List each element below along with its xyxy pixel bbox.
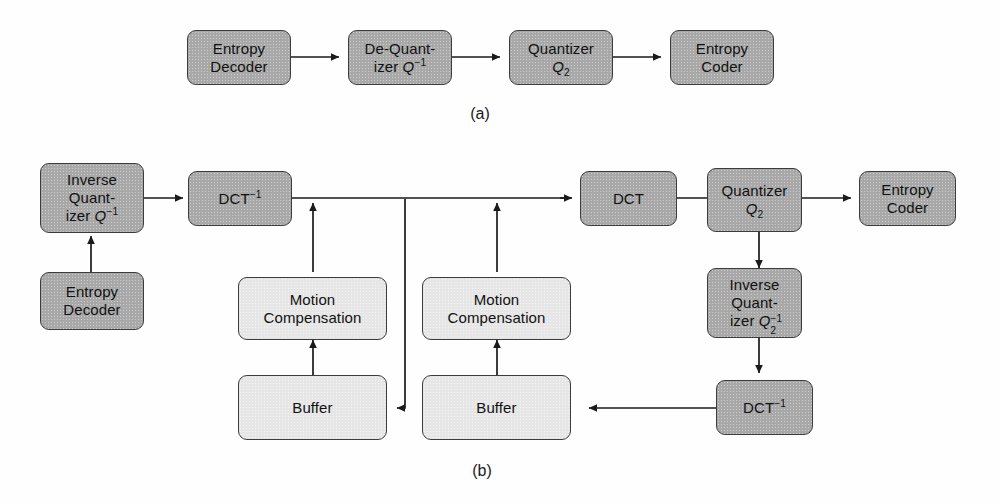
block-motion-compensation-left-b[interactable]: MotionCompensation [238, 277, 387, 340]
q-symbol: Q [403, 58, 415, 75]
block-label: InverseQuant-izer Q−12 [711, 276, 798, 329]
block-label: EntropyCoder [863, 181, 952, 216]
block-label: DCT [584, 190, 673, 208]
block-entropy-decoder-a[interactable]: EntropyDecoder [187, 30, 291, 85]
block-label: DCT−1 [192, 190, 288, 208]
block-dct-b[interactable]: DCT [580, 171, 677, 226]
q-symbol: Q [95, 207, 107, 224]
block-entropy-coder-b[interactable]: EntropyCoder [859, 171, 956, 226]
exponent-minus-one: −1 [106, 206, 118, 217]
wire-b-bus-to-bufleft [397, 199, 405, 408]
figure-canvas: EntropyDecoder De-Quant-izer Q−1 Quantiz… [0, 0, 999, 503]
subscript-two: 2 [758, 209, 764, 220]
caption-b: (b) [452, 462, 512, 480]
subscript-two: 2 [771, 325, 777, 337]
block-label: DCT−1 [720, 399, 809, 417]
block-quantizer-a[interactable]: QuantizerQ2 [509, 30, 613, 85]
block-label: QuantizerQ2 [513, 40, 609, 75]
block-buffer-right-b[interactable]: Buffer [422, 375, 571, 440]
block-entropy-coder-a[interactable]: EntropyCoder [670, 30, 774, 85]
block-idct-left-b[interactable]: DCT−1 [188, 171, 292, 226]
block-label: InverseQuant-izer Q−1 [44, 171, 140, 224]
block-entropy-decoder-b[interactable]: EntropyDecoder [40, 272, 144, 330]
block-inverse-quantizer-2-b[interactable]: InverseQuant-izer Q−12 [707, 268, 802, 338]
block-label: MotionCompensation [426, 291, 567, 326]
caption-a: (a) [450, 105, 510, 123]
block-buffer-left-b[interactable]: Buffer [238, 375, 387, 440]
block-label: MotionCompensation [242, 291, 383, 326]
subscript-two: 2 [564, 67, 570, 78]
block-quantizer-b[interactable]: QuantizerQ2 [707, 168, 802, 232]
block-label: Buffer [242, 399, 383, 417]
block-motion-compensation-right-b[interactable]: MotionCompensation [422, 277, 571, 340]
block-inverse-quantizer-b[interactable]: InverseQuant-izer Q−1 [40, 163, 144, 233]
q-symbol: Q [746, 200, 758, 217]
block-idct-right-b[interactable]: DCT−1 [716, 380, 813, 435]
exponent-minus-one: −1 [774, 398, 786, 409]
exponent-minus-one: −1 [771, 313, 783, 325]
block-label: EntropyDecoder [191, 40, 287, 75]
q-symbol: Q [759, 312, 771, 329]
block-label: EntropyDecoder [44, 283, 140, 318]
block-label: QuantizerQ2 [711, 182, 798, 217]
block-label: De-Quant-izer Q−1 [352, 40, 448, 75]
block-label: Buffer [426, 399, 567, 417]
exponent-minus-one: −1 [414, 57, 426, 68]
block-label: EntropyCoder [674, 40, 770, 75]
q-symbol: Q [552, 58, 564, 75]
block-de-quantizer-a[interactable]: De-Quant-izer Q−1 [348, 30, 452, 85]
exponent-minus-one: −1 [250, 189, 262, 200]
